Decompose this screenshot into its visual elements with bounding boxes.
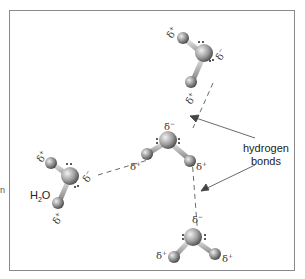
delta-plus-center-left: δ+ xyxy=(130,160,141,172)
delta-minus-center: δ− xyxy=(164,120,175,132)
delta-plus-bottom-right: δ+ xyxy=(222,252,233,264)
water-hydrogen-bond-diagram xyxy=(0,0,305,279)
delta-minus-bottom: δ− xyxy=(192,213,203,225)
molecule-center xyxy=(141,131,196,167)
molecule-top-right xyxy=(177,32,214,88)
bond-label-line1: hydrogen xyxy=(243,143,289,154)
delta-plus-bottom-left: δ+ xyxy=(156,249,167,261)
molecule-label: H2O xyxy=(30,190,50,203)
molecule-bottom xyxy=(168,228,221,263)
bond-label-line2: bonds xyxy=(251,156,281,167)
delta-plus-center-right: δ+ xyxy=(196,160,207,172)
